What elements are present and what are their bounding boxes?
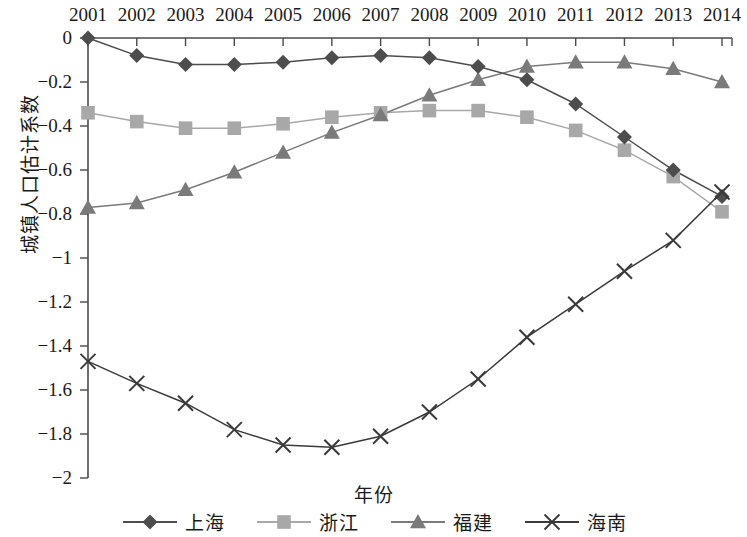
diamond-marker-icon bbox=[142, 514, 157, 529]
cross-marker-icon bbox=[523, 511, 581, 533]
cross-marker bbox=[373, 429, 388, 444]
legend-label: 海南 bbox=[587, 508, 627, 535]
diamond-marker-icon bbox=[227, 57, 242, 72]
diamond-marker-icon bbox=[568, 97, 583, 112]
diamond-marker bbox=[617, 130, 632, 145]
cross-marker bbox=[568, 297, 583, 312]
cross-marker bbox=[129, 376, 144, 391]
square-marker bbox=[471, 104, 485, 118]
square-marker-icon bbox=[569, 124, 583, 138]
chart-container: 城镇人口估计系数 2001200220032004200520062007200… bbox=[0, 0, 747, 537]
triangle-marker-icon bbox=[421, 87, 437, 101]
legend-label: 上海 bbox=[185, 508, 225, 535]
square-marker-icon bbox=[81, 106, 95, 120]
square-marker bbox=[276, 117, 290, 131]
diamond-marker-icon bbox=[373, 48, 388, 63]
chart-legend: 上海浙江福建海南 bbox=[0, 508, 747, 535]
square-marker bbox=[569, 124, 583, 138]
triangle-marker-icon bbox=[178, 182, 194, 196]
diamond-marker-icon bbox=[519, 72, 534, 87]
diamond-marker-icon bbox=[178, 57, 193, 72]
triangle-marker bbox=[421, 87, 437, 101]
diamond-marker bbox=[227, 57, 242, 72]
diamond-marker-icon bbox=[276, 55, 291, 70]
diamond-marker bbox=[519, 72, 534, 87]
triangle-marker-icon bbox=[568, 54, 584, 68]
cross-marker bbox=[519, 330, 534, 345]
cross-marker bbox=[617, 264, 632, 279]
legend-item-浙江[interactable]: 浙江 bbox=[255, 508, 359, 535]
square-marker-icon bbox=[325, 110, 339, 124]
legend-item-上海[interactable]: 上海 bbox=[121, 508, 225, 535]
triangle-marker bbox=[178, 182, 194, 196]
legend-item-海南[interactable]: 海南 bbox=[523, 508, 627, 535]
square-marker-icon bbox=[276, 117, 290, 131]
triangle-marker bbox=[616, 54, 632, 68]
square-marker-icon bbox=[228, 121, 242, 135]
triangle-marker bbox=[568, 54, 584, 68]
diamond-marker-icon bbox=[422, 50, 437, 65]
cross-marker bbox=[471, 372, 486, 387]
triangle-marker-icon bbox=[389, 511, 447, 533]
x-axis-title: 年份 bbox=[0, 480, 747, 507]
cross-marker bbox=[227, 422, 242, 437]
diamond-marker bbox=[276, 55, 291, 70]
diamond-marker bbox=[324, 50, 339, 65]
square-marker bbox=[715, 205, 729, 219]
square-marker bbox=[325, 110, 339, 124]
square-marker-icon bbox=[179, 121, 193, 135]
diamond-marker bbox=[471, 59, 486, 74]
diamond-marker-icon bbox=[471, 59, 486, 74]
square-marker-icon bbox=[255, 511, 313, 533]
diamond-marker-icon bbox=[324, 50, 339, 65]
cross-marker bbox=[666, 233, 681, 248]
square-marker bbox=[520, 110, 534, 124]
plot-area bbox=[0, 0, 747, 537]
diamond-marker-icon bbox=[121, 511, 179, 533]
triangle-marker-icon bbox=[275, 144, 291, 158]
square-marker-icon bbox=[277, 515, 291, 529]
triangle-marker-icon bbox=[324, 125, 340, 139]
legend-label: 浙江 bbox=[319, 508, 359, 535]
square-marker-icon bbox=[618, 143, 632, 157]
triangle-marker bbox=[275, 144, 291, 158]
cross-marker bbox=[422, 405, 437, 420]
series-line-海南 bbox=[88, 192, 722, 447]
square-marker bbox=[179, 121, 193, 135]
triangle-marker-icon bbox=[616, 54, 632, 68]
square-marker bbox=[81, 106, 95, 120]
square-marker bbox=[228, 121, 242, 135]
diamond-marker bbox=[422, 50, 437, 65]
cross-marker bbox=[178, 396, 193, 411]
diamond-marker-icon bbox=[617, 130, 632, 145]
diamond-marker bbox=[568, 97, 583, 112]
square-marker-icon bbox=[423, 104, 437, 118]
square-marker-icon bbox=[520, 110, 534, 124]
diamond-marker bbox=[129, 48, 144, 63]
legend-item-福建[interactable]: 福建 bbox=[389, 508, 493, 535]
diamond-marker bbox=[373, 48, 388, 63]
triangle-marker-icon bbox=[226, 164, 242, 178]
triangle-marker bbox=[226, 164, 242, 178]
diamond-marker-icon bbox=[129, 48, 144, 63]
square-marker bbox=[277, 515, 291, 529]
diamond-marker bbox=[178, 57, 193, 72]
diamond-marker bbox=[142, 514, 157, 529]
square-marker bbox=[130, 115, 144, 129]
square-marker-icon bbox=[715, 205, 729, 219]
square-marker bbox=[423, 104, 437, 118]
square-marker-icon bbox=[130, 115, 144, 129]
diamond-marker-icon bbox=[81, 31, 96, 46]
legend-label: 福建 bbox=[453, 508, 493, 535]
square-marker bbox=[618, 143, 632, 157]
triangle-marker bbox=[324, 125, 340, 139]
square-marker-icon bbox=[471, 104, 485, 118]
diamond-marker bbox=[81, 31, 96, 46]
